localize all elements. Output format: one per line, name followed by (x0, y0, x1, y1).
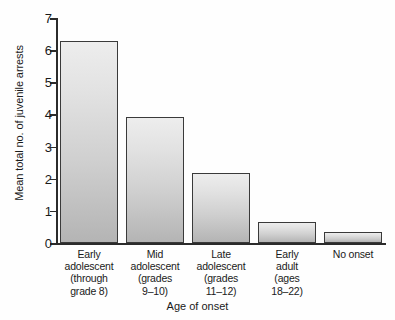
x-axis-title: Age of onset (0, 300, 395, 312)
y-axis-title-text: Mean total no. of juvenile arrests (13, 45, 25, 201)
y-axis-tick-label: 5 (45, 76, 52, 89)
x-axis-line (56, 243, 386, 245)
y-axis-tick-label: 4 (45, 108, 52, 121)
y-axis-tick-label: 1 (45, 204, 52, 217)
bar (126, 117, 184, 243)
y-axis-tick-label: 7 (45, 12, 52, 25)
bar-chart-figure: Mean total no. of juvenile arrests 01234… (0, 0, 395, 320)
plot-area: 01234567 (56, 18, 386, 243)
y-axis-tick-label: 6 (45, 44, 52, 57)
y-axis-line (56, 18, 58, 243)
x-axis-category-label: No onset (314, 248, 392, 260)
y-axis-tick-label: 3 (45, 140, 52, 153)
y-axis-title: Mean total no. of juvenile arrests (10, 0, 28, 245)
bar (258, 222, 316, 243)
bar (192, 173, 250, 243)
y-axis-tick-label: 2 (45, 172, 52, 185)
bar (60, 41, 118, 243)
bar (324, 232, 382, 243)
